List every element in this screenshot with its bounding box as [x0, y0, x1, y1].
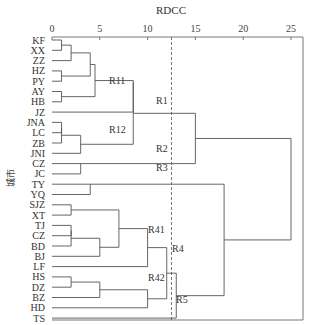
dendrogram-link: [62, 53, 91, 76]
dendrogram-link: [52, 231, 71, 246]
cluster-label-r1: R1: [156, 95, 168, 106]
dendrogram-link: [52, 135, 81, 153]
dendrogram-link: [52, 164, 81, 174]
cluster-label-r5: R5: [176, 294, 188, 305]
dendrogram-chart: RDCC 0510152025城市 KFXXZZHZPYAYHBJZJNALCZ…: [0, 0, 312, 325]
cluster-label-r11: R11: [109, 75, 125, 86]
cluster-label-r41: R41: [148, 224, 165, 235]
dendrogram-link: [52, 92, 62, 102]
dendrogram-link: [195, 138, 291, 239]
x-tick-label: 10: [143, 23, 153, 34]
x-tick-label: 5: [97, 23, 102, 34]
dendrogram-link: [52, 71, 62, 81]
cluster-label-r12: R12: [109, 124, 126, 135]
dendrogram-link: [52, 238, 100, 256]
cluster-label-r4: R4: [172, 243, 184, 254]
dendrogram-link: [52, 128, 62, 143]
dendrogram-link: [52, 277, 71, 287]
y-axis-label: 城市: [5, 169, 16, 187]
chart-title: RDCC: [156, 4, 186, 16]
x-tick-label: 0: [50, 23, 55, 34]
dendrogram-link: [71, 210, 119, 247]
dendrogram-link: [52, 40, 62, 50]
leaf-label: TS: [33, 313, 45, 324]
x-tick-label: 15: [190, 23, 200, 34]
plot-frame: [52, 37, 303, 320]
dendrogram-link: [52, 122, 62, 132]
cluster-label-r42: R42: [148, 272, 165, 283]
cluster-label-r3: R3: [156, 162, 168, 173]
dendrogram-link: [52, 282, 100, 297]
dendrogram-link: [52, 184, 90, 194]
dendrogram-link: [52, 205, 71, 215]
x-tick-label: 25: [286, 23, 296, 34]
cluster-label-r2: R2: [156, 143, 168, 154]
dendrogram-link: [81, 113, 196, 163]
x-tick-label: 20: [238, 23, 248, 34]
dendrogram-link: [52, 225, 71, 235]
